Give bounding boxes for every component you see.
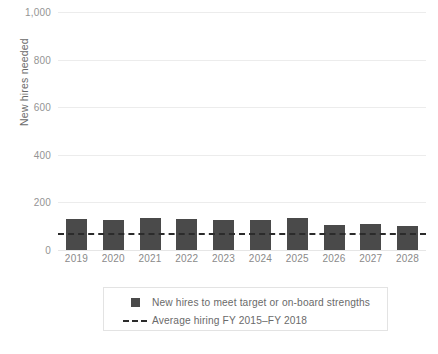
bars-group [58,12,426,250]
bar-chart: New hires needed 1,0008006004002000 2019… [0,0,438,354]
y-axis-tick-label: 800 [34,54,51,65]
plot-area: 1,0008006004002000 [58,12,426,250]
y-axis-title: New hires needed [18,12,30,152]
average-hiring-line [58,233,426,235]
legend-item-average-hiring: Average hiring FY 2015–FY 2018 [104,313,387,328]
chart-legend: New hires to meet target or on-board str… [103,287,388,331]
x-axis-labels: 2019202020212022202320242025202620272028 [58,253,426,269]
y-axis-tick-label: 0 [45,245,51,256]
x-axis-tick-label: 2025 [286,253,309,264]
y-axis-tick-label: 200 [34,197,51,208]
x-axis-tick-label: 2027 [359,253,382,264]
x-axis-tick-label: 2022 [175,253,198,264]
bar [360,224,381,250]
bar [324,225,345,250]
legend-item-new-hires: New hires to meet target or on-board str… [104,295,387,310]
x-axis-tick-label: 2026 [322,253,345,264]
x-axis-tick-label: 2028 [396,253,419,264]
legend-item-new-hires-label: New hires to meet target or on-board str… [152,297,370,308]
x-axis-tick-label: 2024 [249,253,272,264]
legend-item-average-hiring-label: Average hiring FY 2015–FY 2018 [152,315,307,326]
y-axis-tick-label: 1,000 [25,7,51,18]
dashed-line-swatch-icon [118,320,152,322]
gridline: 0 [58,250,426,251]
y-axis-tick-label: 400 [34,149,51,160]
bar [250,220,271,250]
bar [397,226,418,250]
x-axis-tick-label: 2019 [65,253,88,264]
x-axis-tick-label: 2020 [102,253,125,264]
square-swatch-icon [118,298,152,307]
x-axis-tick-label: 2023 [212,253,235,264]
y-axis-tick-label: 600 [34,102,51,113]
x-axis-tick-label: 2021 [138,253,161,264]
